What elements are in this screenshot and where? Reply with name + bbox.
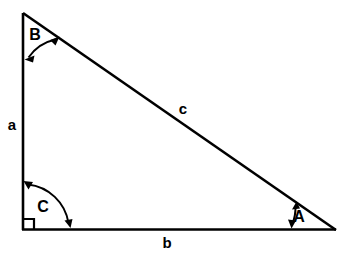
angle-label-c: C	[37, 198, 49, 215]
triangle-diagram: B C A a b c	[0, 0, 344, 257]
side-label-c: c	[179, 100, 187, 117]
angle-b-arrow-end	[50, 37, 60, 46]
side-label-b: b	[162, 234, 171, 251]
angle-c-arrow-end	[65, 219, 73, 228]
angle-label-a: A	[293, 208, 305, 225]
triangle-figure: B C A a b c	[0, 0, 344, 257]
side-c-hypotenuse-line	[23, 13, 336, 230]
angle-label-b: B	[29, 26, 41, 43]
side-label-a: a	[8, 116, 17, 133]
